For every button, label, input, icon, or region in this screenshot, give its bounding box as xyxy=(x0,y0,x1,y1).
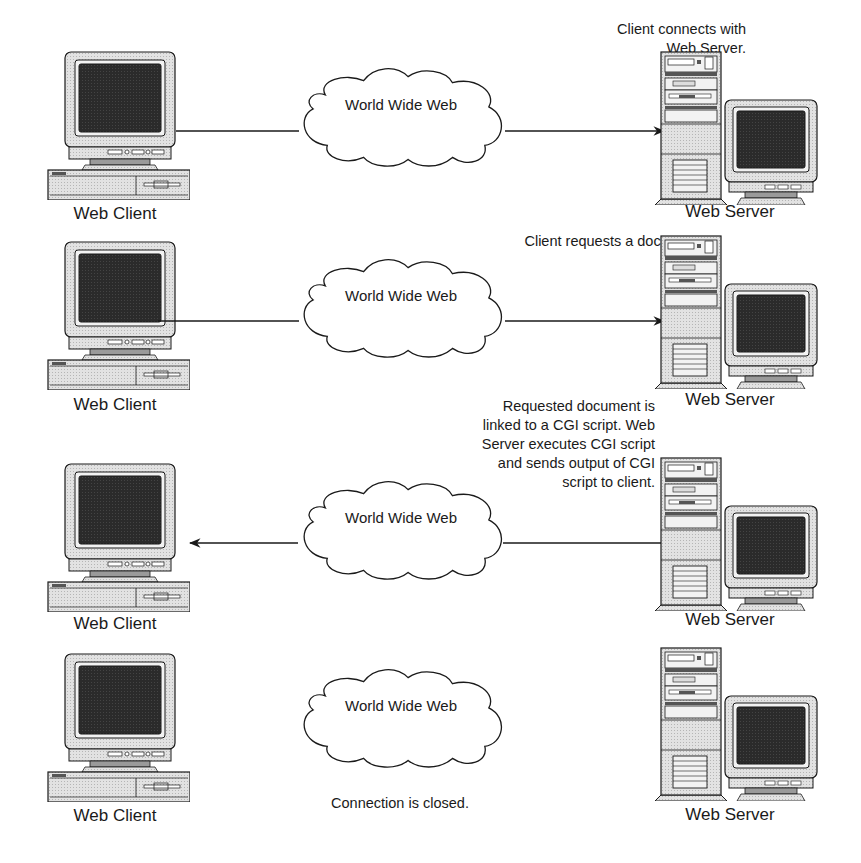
server-computer-icon xyxy=(653,646,818,801)
cloud-label: World Wide Web xyxy=(295,509,507,526)
cloud-label: World Wide Web xyxy=(295,697,507,714)
step-caption: Requested document is linked to a CGI sc… xyxy=(440,397,655,492)
client-computer-icon xyxy=(40,652,190,802)
step-caption: Connection is closed. xyxy=(290,794,510,813)
server-label: Web Server xyxy=(665,805,795,825)
client-label: Web Client xyxy=(50,806,180,826)
server-computer-icon xyxy=(653,456,818,611)
server-label: Web Server xyxy=(665,610,795,630)
cloud-icon xyxy=(295,663,507,770)
